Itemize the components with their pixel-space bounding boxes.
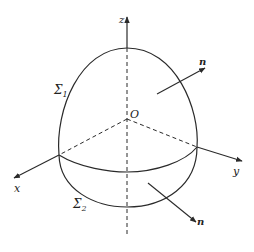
y-axis [127,119,242,161]
lower-normal-label: n [197,216,204,227]
upper-normal-arrow [157,68,205,94]
sigma2-label: Σ2 [72,197,87,213]
surface-diagram: z x y O Σ1 Σ2 n n [0,0,254,252]
z-axis-label: z [118,14,125,25]
y-axis-label: y [232,165,240,178]
origin-label: O [130,108,139,121]
upper-normal-label: n [199,56,206,67]
x-axis-label: x [14,182,21,195]
diagram-canvas: z x y O Σ1 Σ2 n n [0,0,254,252]
x-axis [14,119,127,178]
equator-curve [59,147,197,172]
sigma1-label: Σ1 [53,83,68,99]
upper-surface-curve [59,48,198,155]
